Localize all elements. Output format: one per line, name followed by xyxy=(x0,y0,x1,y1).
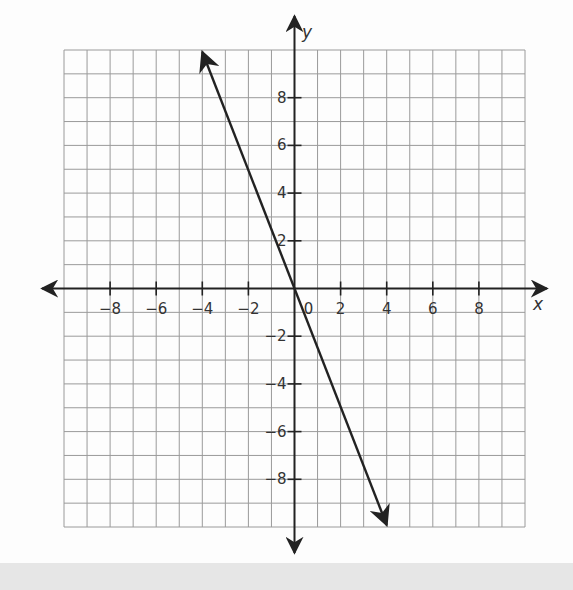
page-bottom-band xyxy=(0,563,573,590)
y-tick-label: 6 xyxy=(277,136,287,154)
coordinate-plane-figure: −8−6−4−202468−8−6−4−22468 x y xyxy=(0,0,573,590)
x-tick-label: −8 xyxy=(99,300,121,318)
x-tick-label: 8 xyxy=(474,300,484,318)
x-tick-label: −2 xyxy=(237,300,259,318)
x-axis-label: x xyxy=(532,294,544,314)
x-tick-label: 2 xyxy=(336,300,346,318)
y-tick-label: −8 xyxy=(264,470,286,488)
x-tick-label: 4 xyxy=(382,300,392,318)
x-tick-label: −6 xyxy=(145,300,167,318)
y-axis-label: y xyxy=(301,22,313,42)
y-tick-label: −6 xyxy=(264,423,286,441)
y-tick-label: −4 xyxy=(264,375,286,393)
y-tick-label: 4 xyxy=(277,184,287,202)
y-tick-label: 8 xyxy=(277,89,287,107)
y-tick-label: −2 xyxy=(264,327,286,345)
axes xyxy=(42,16,547,553)
x-tick-label: −4 xyxy=(191,300,213,318)
coordinate-plane: −8−6−4−202468−8−6−4−22468 x y xyxy=(0,0,573,590)
x-tick-label: 6 xyxy=(428,300,438,318)
